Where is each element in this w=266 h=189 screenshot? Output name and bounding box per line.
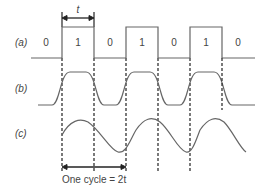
bit-period-arrow <box>62 16 94 21</box>
bit-label: 1 <box>203 37 209 48</box>
row-label-b: (b) <box>15 83 27 94</box>
cycle-label: One cycle = 2t <box>62 174 126 185</box>
sine-wave <box>62 119 246 152</box>
bit-label: 0 <box>235 37 241 48</box>
waveform-diagram: t One cycle = 2t (a) (b) (c) 0 1 0 1 0 1… <box>0 0 266 189</box>
bit-label: 0 <box>107 37 113 48</box>
bit-label: 0 <box>43 37 49 48</box>
bit-period-label: t <box>77 4 81 15</box>
bit-label: 1 <box>139 37 145 48</box>
dashed-guides <box>62 58 190 172</box>
row-label-c: (c) <box>15 128 27 139</box>
bit-label: 1 <box>75 37 81 48</box>
bit-label: 0 <box>171 37 177 48</box>
row-label-a: (a) <box>15 37 27 48</box>
